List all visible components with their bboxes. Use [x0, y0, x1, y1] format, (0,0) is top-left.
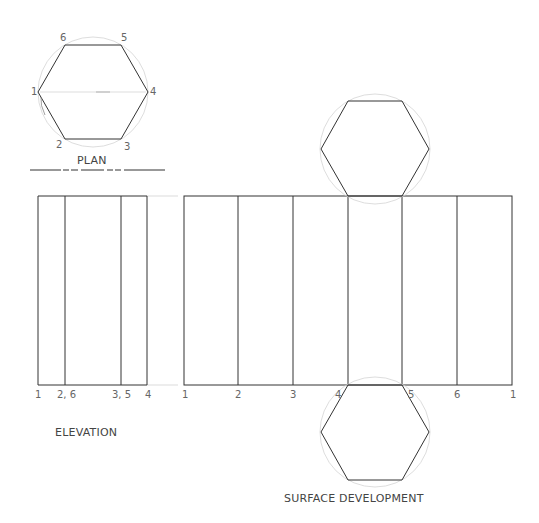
elevation-label-3-5: 3, 5	[112, 390, 131, 400]
elevation-view	[38, 196, 178, 385]
dev-label-6: 6	[454, 390, 460, 400]
dev-label-1a: 1	[182, 390, 188, 400]
dev-label-4: 4	[335, 390, 341, 400]
development-title: SURFACE DEVELOPMENT	[284, 492, 424, 505]
drawing-canvas	[0, 0, 539, 523]
top-circumcircle	[320, 94, 430, 204]
plan-title: PLAN	[77, 154, 107, 167]
plan-view	[30, 37, 165, 170]
plan-label-1: 1	[31, 87, 37, 97]
dev-label-2: 2	[235, 390, 241, 400]
elevation-label-2-6: 2, 6	[57, 390, 76, 400]
dev-label-1b: 1	[510, 390, 516, 400]
elevation-title: ELEVATION	[55, 426, 117, 439]
plan-label-6: 6	[60, 33, 66, 43]
plan-label-5: 5	[121, 33, 127, 43]
plan-label-4: 4	[150, 87, 156, 97]
dev-label-5: 5	[408, 390, 414, 400]
development-view	[184, 94, 512, 487]
top-hexagon	[321, 101, 429, 196]
elevation-label-1: 1	[35, 390, 41, 400]
elevation-label-4: 4	[145, 390, 151, 400]
plan-label-3: 3	[124, 142, 130, 152]
dev-label-3: 3	[290, 390, 296, 400]
plan-label-2: 2	[56, 140, 62, 150]
